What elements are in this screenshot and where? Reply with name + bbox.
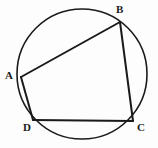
geometry-figure: A B C D: [0, 0, 158, 148]
edge-bc: [120, 22, 133, 121]
edge-ab: [21, 22, 120, 77]
edge-da: [21, 77, 33, 120]
edge-cd: [33, 120, 133, 121]
vertex-label-d: D: [23, 122, 31, 133]
vertex-label-b: B: [116, 4, 123, 15]
vertex-label-c: C: [137, 122, 145, 133]
vertex-label-a: A: [5, 70, 13, 81]
